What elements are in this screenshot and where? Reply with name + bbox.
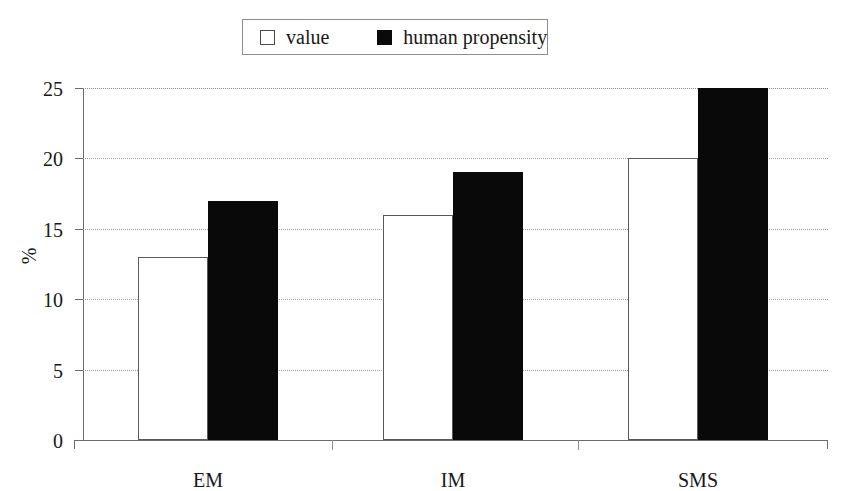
y-tick-20: 20 xyxy=(75,158,83,159)
legend-label-human-propensity: human propensity xyxy=(403,27,547,47)
y-tick-0: 0 xyxy=(75,440,83,441)
y-tick-10: 10 xyxy=(75,299,83,300)
category-separator-2 xyxy=(578,440,579,450)
y-tick-5: 5 xyxy=(75,370,83,371)
legend-swatch-open-square-icon xyxy=(260,30,275,45)
bar-im-human-propensity xyxy=(453,172,523,440)
y-axis-line xyxy=(83,88,84,440)
y-tick-25: 25 xyxy=(75,88,83,89)
y-tick-label-15: 15 xyxy=(43,218,63,241)
x-axis-label-sms: SMS xyxy=(678,469,718,491)
legend-entry-value: value xyxy=(260,20,329,54)
x-axis-label-em: EM xyxy=(193,469,223,491)
legend-label-value: value xyxy=(286,27,329,47)
y-tick-label-0: 0 xyxy=(53,430,63,453)
y-tick-label-20: 20 xyxy=(43,148,63,171)
x-axis-right-cap xyxy=(827,440,828,449)
chart-legend: value human propensity xyxy=(242,19,548,55)
y-tick-label-25: 25 xyxy=(43,78,63,101)
y-axis-title: % xyxy=(9,236,49,276)
bar-sms-value xyxy=(628,158,698,440)
legend-entry-human-propensity: human propensity xyxy=(377,20,547,54)
y-tick-label-10: 10 xyxy=(43,289,63,312)
category-separator-1 xyxy=(332,440,333,450)
x-axis-label-im: IM xyxy=(441,469,465,491)
plot-area: 0510152025 EMIMSMS xyxy=(83,88,828,440)
bar-sms-human-propensity xyxy=(698,88,768,440)
y-tick-15: 15 xyxy=(75,229,83,230)
bar-em-value xyxy=(138,257,208,440)
bar-im-value xyxy=(383,215,453,440)
legend-swatch-filled-square-icon xyxy=(377,30,392,45)
x-axis-line xyxy=(74,440,828,441)
y-tick-label-5: 5 xyxy=(53,359,63,382)
x-axis-left-cap xyxy=(74,440,75,449)
bar-em-human-propensity xyxy=(208,201,278,440)
